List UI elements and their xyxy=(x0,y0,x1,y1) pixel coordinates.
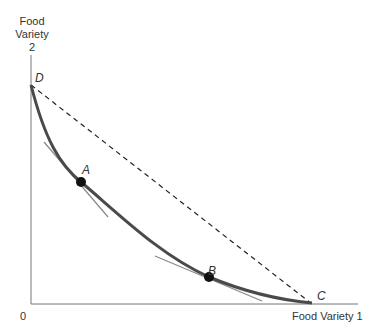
point-label-a: A xyxy=(82,163,90,177)
point-label-d: D xyxy=(35,71,44,85)
point-label-c: C xyxy=(317,289,326,303)
point-label-b: B xyxy=(208,264,216,278)
y-axis-label-line3: 2 xyxy=(14,41,50,54)
ppf-diagram xyxy=(0,0,375,336)
y-axis-label-line1: Food xyxy=(14,15,50,28)
origin-label: 0 xyxy=(20,310,26,323)
production-curve xyxy=(31,85,312,303)
y-axis-label: Food Variety 2 xyxy=(14,15,50,54)
y-axis-label-line2: Variety xyxy=(14,28,50,41)
x-axis-label: Food Variety 1 xyxy=(292,310,363,323)
dashed-line-dc xyxy=(31,85,312,304)
point-a-dot xyxy=(76,177,86,187)
